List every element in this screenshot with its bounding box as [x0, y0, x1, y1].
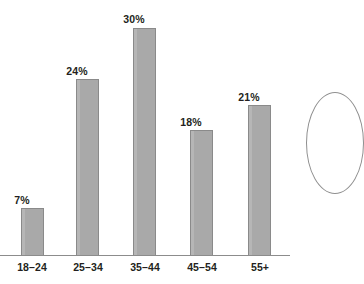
- x-axis-label-35-44: 35–44: [115, 261, 175, 274]
- bar-25-34: [76, 79, 99, 256]
- bar-value-label-25-34: 24%: [54, 65, 100, 77]
- x-axis-label-55-plus: 55+: [230, 261, 290, 274]
- bar-55-plus: [248, 105, 271, 256]
- x-axis-label-45-54: 45–54: [172, 261, 232, 274]
- bar-value-label-18-24: 7%: [0, 194, 45, 206]
- bar-value-label-35-44: 30%: [111, 13, 157, 25]
- x-axis-label-18-24: 18–24: [2, 261, 62, 274]
- bar-highlight: [249, 106, 252, 256]
- bar-18-24: [21, 208, 44, 256]
- bar-highlight: [191, 131, 194, 256]
- bar-45-54: [190, 130, 213, 256]
- bar-highlight: [77, 80, 80, 256]
- bar-value-label-45-54: 18%: [168, 116, 214, 128]
- bar-35-44: [133, 28, 156, 256]
- x-axis-line: [0, 255, 290, 256]
- bar-highlight: [134, 29, 137, 256]
- bar-highlight: [22, 209, 25, 256]
- bar-value-label-55-plus: 21%: [226, 91, 272, 103]
- x-axis-label-25-34: 25–34: [58, 261, 118, 274]
